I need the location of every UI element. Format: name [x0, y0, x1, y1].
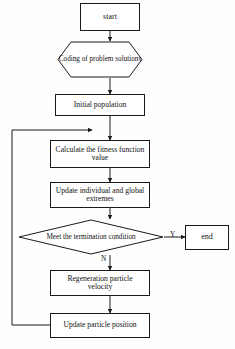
- node-start-label: start: [103, 13, 117, 22]
- node-end[interactable]: end: [185, 225, 229, 250]
- node-termination-condition-label: Meet the termination condition: [18, 219, 164, 255]
- node-update-position-label: Update particle position: [64, 321, 137, 330]
- node-regeneration-velocity[interactable]: Regeneration particle velocity: [50, 270, 150, 296]
- node-coding-label: Coding of problem solutions: [57, 41, 143, 78]
- node-end-label: end: [201, 233, 213, 242]
- branch-label-no-text: N: [101, 255, 106, 263]
- node-update-position[interactable]: Update particle position: [50, 313, 150, 338]
- node-update-extremes[interactable]: Update individual and global extremes: [50, 182, 150, 208]
- branch-label-yes: Y: [170, 231, 175, 239]
- node-update-extremes-label: Update individual and global extremes: [55, 187, 145, 204]
- node-initial-population[interactable]: Initial population: [55, 94, 145, 116]
- node-initial-population-label: Initial population: [74, 101, 127, 110]
- node-calculate-fitness[interactable]: Calculate the fitness function value: [50, 140, 150, 168]
- node-termination-condition[interactable]: Meet the termination condition: [18, 219, 164, 255]
- node-calculate-fitness-label: Calculate the fitness function value: [55, 146, 145, 163]
- node-start[interactable]: start: [80, 3, 140, 31]
- branch-label-yes-text: Y: [170, 231, 175, 239]
- branch-label-no: N: [101, 255, 106, 263]
- node-regeneration-velocity-label: Regeneration particle velocity: [55, 275, 145, 292]
- node-coding[interactable]: Coding of problem solutions: [57, 41, 143, 78]
- flowchart-canvas: start Coding of problem solutions Initia…: [0, 0, 235, 349]
